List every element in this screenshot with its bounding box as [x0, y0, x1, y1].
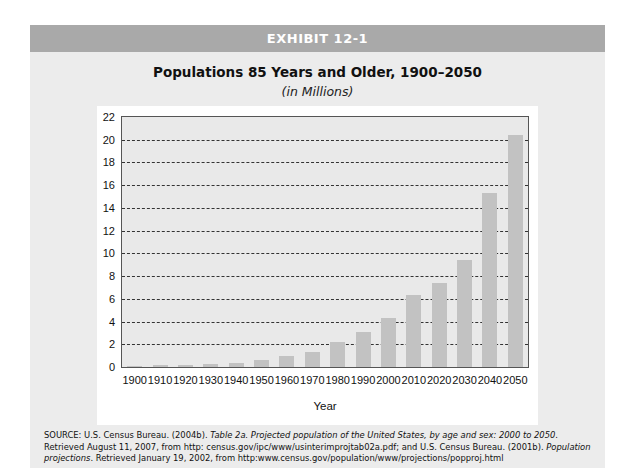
- y-tick-label: 4: [97, 316, 115, 328]
- chart-area: 0246810121416182022 19001910192019301940…: [97, 106, 538, 425]
- x-tick-label: 2040: [477, 374, 503, 386]
- bar-1900: [127, 366, 142, 367]
- gridline: [122, 185, 528, 186]
- y-tick-label: 20: [97, 134, 115, 146]
- bar-1930: [203, 364, 218, 367]
- bar-2020: [432, 283, 447, 367]
- bar-1950: [254, 360, 269, 367]
- bar-2040: [482, 193, 497, 367]
- x-tick-label: 1930: [198, 374, 224, 386]
- gridline: [122, 253, 528, 254]
- source-text-3: . Retrieved January 19, 2002, from http:…: [90, 453, 503, 463]
- bar-2050: [508, 135, 523, 367]
- gridline: [122, 162, 528, 163]
- plot-area: [121, 116, 529, 368]
- x-tick-label: 1950: [249, 374, 275, 386]
- x-tick-label: 2030: [452, 374, 478, 386]
- chart-subtitle: (in Millions): [30, 84, 605, 99]
- bar-1910: [153, 365, 168, 367]
- bar-1940: [229, 363, 244, 367]
- bar-1990: [356, 332, 371, 367]
- source-note: SOURCE: U.S. Census Bureau. (2004b). Tab…: [44, 430, 594, 465]
- y-tick-label: 0: [97, 361, 115, 373]
- y-tick-label: 16: [97, 179, 115, 191]
- x-tick-label: 2010: [401, 374, 427, 386]
- x-tick-label: 1960: [274, 374, 300, 386]
- x-tick-label: 2020: [426, 374, 452, 386]
- bar-1920: [178, 365, 193, 367]
- exhibit-header: EXHIBIT 12-1: [30, 25, 605, 52]
- x-tick-label: 1900: [122, 374, 148, 386]
- y-tick-label: 12: [97, 225, 115, 237]
- y-tick-label: 8: [97, 270, 115, 282]
- gridline: [122, 231, 528, 232]
- x-tick-label: 2050: [502, 374, 528, 386]
- x-tick-label: 1980: [325, 374, 351, 386]
- x-axis-label: Year: [121, 400, 529, 412]
- bar-2030: [457, 260, 472, 367]
- bar-2010: [406, 295, 421, 367]
- y-tick-label: 10: [97, 247, 115, 259]
- y-tick-label: 2: [97, 338, 115, 350]
- bar-1970: [305, 352, 320, 367]
- y-tick-label: 6: [97, 293, 115, 305]
- gridline: [122, 208, 528, 209]
- source-title-1: Table 2a. Projected population of the Un…: [210, 430, 555, 440]
- source-label: SOURCE:: [44, 430, 81, 440]
- x-tick-label: 2000: [375, 374, 401, 386]
- gridline: [122, 140, 528, 141]
- y-tick-label: 14: [97, 202, 115, 214]
- x-tick-label: 1940: [223, 374, 249, 386]
- y-tick-label: 18: [97, 156, 115, 168]
- bar-2000: [381, 318, 396, 367]
- x-tick-label: 1910: [147, 374, 173, 386]
- y-tick-label: 22: [97, 111, 115, 123]
- bar-1960: [279, 356, 294, 367]
- source-text-1: U.S. Census Bureau. (2004b).: [84, 430, 210, 440]
- bar-1980: [330, 342, 345, 367]
- x-tick-label: 1920: [172, 374, 198, 386]
- x-tick-label: 1990: [350, 374, 376, 386]
- x-tick-label: 1970: [299, 374, 325, 386]
- chart-title: Populations 85 Years and Older, 1900–205…: [30, 64, 605, 80]
- exhibit-panel: EXHIBIT 12-1 Populations 85 Years and Ol…: [30, 25, 605, 468]
